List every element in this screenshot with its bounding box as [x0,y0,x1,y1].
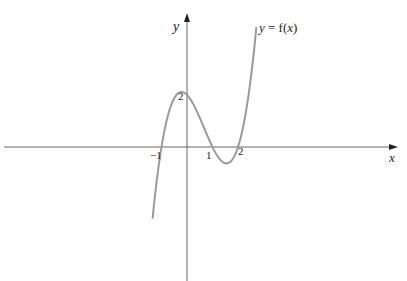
tick-label-2: 2 [238,145,244,157]
graph-canvas: y x y = f(x) −1 1 2 2 [0,0,407,281]
tick-label-y2: 2 [178,90,184,102]
x-axis-label: x [388,150,395,165]
curve-label: y = f(x) [257,20,297,35]
y-axis-label: y [171,19,180,34]
tick-label-1: 1 [206,149,212,161]
cubic-curve [153,27,257,218]
tick-label-neg1: −1 [150,149,162,161]
y-axis-arrow-icon [184,13,190,22]
